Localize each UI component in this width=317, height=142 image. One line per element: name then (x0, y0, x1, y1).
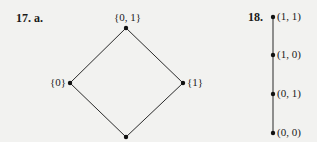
problem-17-label: 17. a. (16, 11, 43, 26)
problem-18-label: 18. (248, 10, 263, 25)
chain-node-4 (271, 131, 275, 135)
chain-label-2: (1, 0) (277, 48, 301, 60)
chain-node-2 (271, 53, 275, 57)
diagram-lines (0, 0, 317, 142)
node-top-label: {0, 1} (114, 11, 141, 23)
chain-node-1 (271, 15, 275, 19)
node-right (181, 81, 185, 85)
node-bottom (124, 135, 128, 139)
node-top (124, 26, 128, 30)
node-left (68, 81, 72, 85)
node-left-label: {0} (50, 76, 66, 88)
chain-node-3 (271, 92, 275, 96)
chain-label-3: (0, 1) (277, 87, 301, 99)
chain-label-4: (0, 0) (277, 126, 301, 138)
node-right-label: {1} (187, 76, 203, 88)
chain-label-1: (1, 1) (277, 10, 301, 22)
